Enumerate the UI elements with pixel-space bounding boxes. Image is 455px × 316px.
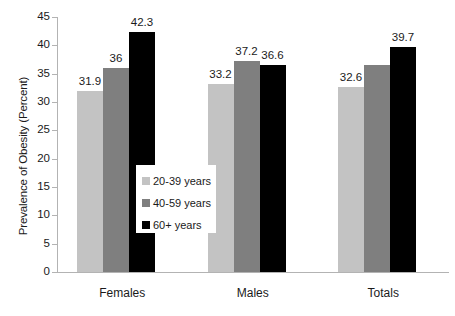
y-tick-mark [52,187,57,188]
bar [338,87,364,272]
bar [234,61,260,272]
bar-value-label: 36.6 [253,50,293,62]
y-tick-mark [52,244,57,245]
bar-value-label: 31.9 [70,76,110,88]
bar [103,68,129,272]
bar [129,32,155,272]
y-tick-mark [52,102,57,103]
y-tick-label: 40 [24,39,50,51]
y-tick-label: 15 [24,181,50,193]
legend-swatch-icon [142,221,150,229]
bar-value-label: 36 [96,53,136,65]
y-axis-tick-labels: 051015202530354045 [22,0,50,316]
y-tick-label: 25 [24,124,50,136]
legend-swatch-icon [142,199,150,207]
y-tick-label: 20 [24,153,50,165]
y-tick-label: 35 [24,68,50,80]
bar-value-label: 39.7 [383,32,423,44]
bar [364,65,390,272]
legend-item-label: 20-39 years [153,175,211,187]
x-category-label: Totals [318,286,449,300]
y-tick-label: 5 [24,238,50,250]
y-tick-label: 30 [24,96,50,108]
legend-swatch-icon [142,177,150,185]
y-tick-mark [52,74,57,75]
y-tick-mark [52,130,57,131]
bar-value-label: 33.2 [201,69,241,81]
y-tick-mark [52,215,57,216]
x-category-label: Males [188,286,319,300]
bar [77,91,103,272]
y-tick-label: 10 [24,209,50,221]
chart-legend: 20-39 years40-59 years60+ years [136,165,216,233]
legend-item-label: 40-59 years [153,197,211,209]
bar [260,65,286,272]
bar [390,47,416,272]
legend-item-label: 60+ years [153,219,202,231]
x-category-label: Females [57,286,188,300]
y-tick-mark [52,45,57,46]
bar-value-label: 42.3 [122,17,162,29]
y-tick-label: 45 [24,11,50,23]
y-tick-mark [52,159,57,160]
bar-value-label: 32.6 [331,72,371,84]
bar-chart: Prevalence of Obesity (Percent) 05101520… [0,0,455,316]
y-tick-mark [52,272,57,273]
y-tick-label: 0 [24,266,50,278]
y-tick-mark [52,17,57,18]
